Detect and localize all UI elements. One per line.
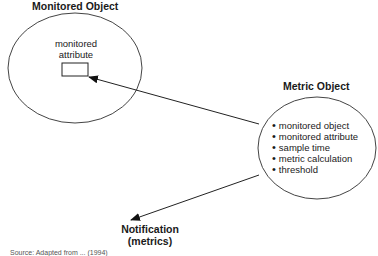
arrow-to-attribute — [89, 77, 259, 124]
metric-object-title: Metric Object — [283, 80, 350, 92]
metric-item: threshold — [272, 164, 358, 175]
arrow-to-notification — [131, 175, 259, 220]
notification-line1: Notification — [105, 223, 195, 235]
notification-line2: (metrics) — [105, 235, 195, 247]
monitored-attribute-label: monitored attribute — [36, 38, 116, 60]
monitored-object-ellipse — [8, 13, 142, 123]
notification-label: Notification (metrics) — [105, 223, 195, 247]
monitored-object-title: Monitored Object — [32, 0, 118, 12]
metric-object-items: monitored object monitored attribute sam… — [272, 120, 358, 175]
monitored-attribute-box — [62, 63, 88, 76]
source-caption: Source: Adapted from ... (1994) — [10, 249, 108, 256]
metric-item: monitored attribute — [272, 131, 358, 142]
metric-item: monitored object — [272, 120, 358, 131]
attr-label-line1: monitored — [36, 38, 116, 49]
metric-item: sample time — [272, 142, 358, 153]
attr-label-line2: attribute — [36, 49, 116, 60]
metric-item: metric calculation — [272, 153, 358, 164]
